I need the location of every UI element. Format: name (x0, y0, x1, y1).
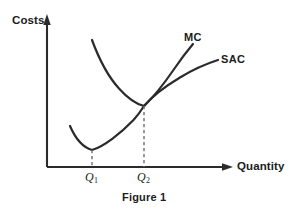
sac-curve-label: SAC (221, 54, 245, 65)
economics-cost-curve-figure: Costs Quantity MC SAC Q1 Q2 Figure 1 (0, 0, 297, 217)
x-axis-label: Quantity (237, 161, 284, 173)
y-axis-label: Costs (12, 15, 44, 27)
x-axis-tick-label-q2: Q2 (137, 171, 150, 183)
mc-curve-label: MC (184, 32, 202, 43)
mc-curve (92, 40, 193, 106)
q1-subscript: 1 (94, 176, 98, 185)
figure-caption: Figure 1 (122, 192, 166, 203)
q1-letter: Q (85, 170, 94, 184)
q2-letter: Q (137, 170, 146, 184)
x-axis-tick-label-q1: Q1 (85, 171, 98, 183)
q2-subscript: 2 (146, 176, 150, 185)
x-axis-arrow-icon (222, 163, 233, 170)
